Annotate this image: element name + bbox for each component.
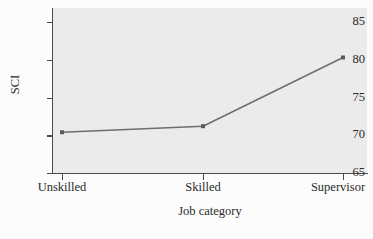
series-line-sci [62,57,343,132]
chart-figure: 85 80 75 70 65 Unskilled Skilled Supervi… [0,0,373,239]
series-markers-sci [60,55,345,134]
data-series-layer [0,0,373,239]
data-point-supervisor [341,55,345,59]
data-point-skilled [201,124,205,128]
data-point-unskilled [60,130,64,134]
